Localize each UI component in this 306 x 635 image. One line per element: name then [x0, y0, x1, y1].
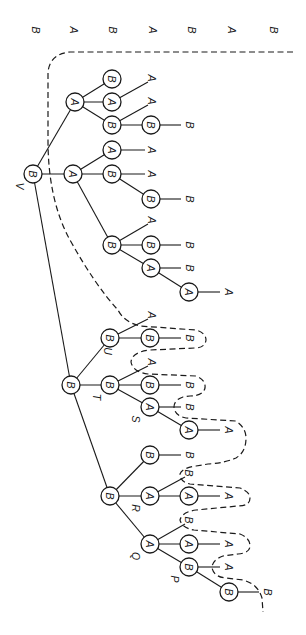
top-label: B [186, 26, 198, 33]
tree-node: B [141, 446, 159, 464]
edge [33, 102, 75, 174]
node-label: B [106, 170, 118, 177]
leaf-label: A [223, 425, 235, 433]
leaf-label: B [184, 381, 196, 388]
leaf-label: A [223, 562, 235, 570]
top-label: B [268, 26, 280, 33]
node-tag-t: T [91, 394, 103, 402]
top-label: B [107, 26, 119, 33]
edge [71, 385, 110, 496]
node-tag-r: R [130, 504, 142, 512]
leaf-label: A [223, 491, 235, 499]
leaf-label: B [184, 334, 196, 341]
tree-node: B [101, 376, 119, 394]
node-label: A [144, 402, 156, 410]
tree-node: B [142, 190, 160, 208]
tree-node: B [142, 236, 160, 254]
leaf-label: B [184, 451, 196, 458]
leaf-label: A [146, 73, 158, 81]
node-tag-u: U [102, 347, 114, 355]
node-label: A [106, 97, 118, 105]
node-label: B [144, 334, 156, 341]
leaf-labels: AABAABABBAABABBABBABAAB [146, 73, 274, 595]
dashed-boundary [48, 52, 293, 612]
tree-node: A [103, 93, 121, 111]
tree-node: B [141, 376, 159, 394]
leaf-label: B [184, 403, 196, 410]
edge [33, 174, 71, 385]
leaf-label: B [184, 264, 196, 271]
leaf-label: B [183, 469, 195, 476]
tree-node: B [62, 376, 80, 394]
tree-node: B [101, 329, 119, 347]
node-label: A [183, 287, 195, 295]
edge [73, 174, 112, 245]
tree-node: B [103, 70, 121, 88]
node-label: A [183, 425, 195, 433]
node-tag-p: P [169, 575, 181, 582]
leaf-label: A [146, 169, 158, 177]
leaf-label: B [184, 121, 196, 128]
node-tag-q: Q [130, 552, 142, 560]
tree-node: B [142, 116, 160, 134]
node-label: A [145, 263, 157, 271]
tree-node: A [141, 487, 159, 505]
tree-node: A [180, 535, 198, 553]
leaf-label: A [223, 287, 235, 295]
tree-node: A [141, 535, 159, 553]
tree-node: B [180, 558, 198, 576]
tree-node: B [103, 236, 121, 254]
top-row-labels: BABABAB [30, 25, 280, 33]
node-tag-s: S [130, 415, 142, 422]
node-label: B [145, 241, 157, 248]
node-label: A [183, 491, 195, 499]
tree-node: A [180, 421, 198, 439]
node-label: A [183, 539, 195, 547]
tree-node: B [220, 583, 238, 601]
top-label: A [68, 25, 80, 33]
node-label: B [104, 334, 116, 341]
node-label: B [183, 563, 195, 570]
node-label: B [104, 492, 116, 499]
top-label: B [30, 26, 42, 33]
node-tag-v: V [14, 182, 26, 190]
leaf-label: A [223, 539, 235, 547]
leaf-label: B [184, 195, 196, 202]
top-label: A [226, 25, 238, 33]
leaf-label: A [146, 145, 158, 153]
tree-node: B [141, 329, 159, 347]
node-label: A [69, 97, 81, 105]
node-label: B [223, 588, 235, 595]
node-label: A [144, 491, 156, 499]
node-label: B [104, 381, 116, 388]
node-label: B [145, 195, 157, 202]
tree-node: A [142, 259, 160, 277]
node-label: B [106, 75, 118, 82]
node-label: B [106, 121, 118, 128]
leaf-label: B [262, 588, 274, 595]
leaf-label: A [146, 96, 158, 104]
tree-node: A [66, 93, 84, 111]
tree-node: A [180, 487, 198, 505]
node-label: A [106, 145, 118, 153]
node-label: A [67, 169, 79, 177]
tree-node: B [101, 487, 119, 505]
leaf-label: A [146, 215, 158, 223]
node-label: B [144, 381, 156, 388]
node-label: B [144, 451, 156, 458]
tree-node: A [64, 165, 82, 183]
tree-node: A [180, 283, 198, 301]
node-label: B [27, 170, 39, 177]
node-label: B [106, 241, 118, 248]
tree-edges [33, 79, 229, 592]
leaf-label: B [183, 516, 195, 523]
tree-node: B [103, 116, 121, 134]
leaf-label: B [184, 241, 196, 248]
node-label: A [144, 539, 156, 547]
tree-diagram: BABABAB BABABBAABBBBAABBBBBAABBAAAABB AA… [0, 0, 306, 635]
tree-node: B [103, 165, 121, 183]
leaf-label: A [146, 310, 158, 318]
top-label: A [147, 25, 159, 33]
tree-node: B [24, 165, 42, 183]
leaf-label: A [146, 357, 158, 365]
